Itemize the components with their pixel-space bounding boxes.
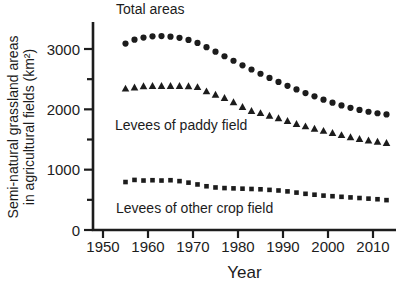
series-label-total-areas: Total areas: [116, 2, 184, 17]
data-point-square: [294, 190, 299, 195]
data-point-triangle: [140, 82, 148, 89]
data-point-triangle: [257, 109, 265, 116]
data-point-triangle: [122, 85, 130, 92]
data-point-square: [330, 194, 335, 199]
data-point-circle: [338, 102, 344, 108]
data-point-circle: [266, 75, 272, 81]
data-point-triangle: [167, 82, 175, 89]
data-point-triangle: [374, 138, 382, 145]
data-point-square: [321, 193, 326, 198]
data-point-circle: [122, 40, 128, 46]
y-tick-label: 2000: [47, 101, 80, 118]
data-point-circle: [131, 37, 137, 43]
data-point-triangle: [338, 131, 346, 138]
data-point-circle: [311, 93, 317, 99]
data-point-triangle: [347, 133, 355, 140]
x-tick-label: 1990: [266, 238, 299, 255]
data-point-circle: [212, 49, 218, 55]
data-point-square: [204, 184, 209, 189]
data-point-square: [285, 189, 290, 194]
x-tick-label: 1960: [131, 238, 164, 255]
y-axis-label-line1: Semi-natural grassland areas: [5, 2, 21, 252]
y-axis-label: Semi-natural grassland areas in agricult…: [5, 2, 39, 252]
data-point-square: [177, 179, 182, 184]
y-axis-label-line2: in agricultural fields (km²): [21, 2, 37, 252]
data-point-circle: [221, 53, 227, 59]
data-point-square: [384, 198, 389, 203]
data-point-square: [123, 180, 128, 185]
y-tick-label: 3000: [47, 41, 80, 58]
data-point-circle: [365, 109, 371, 115]
data-point-circle: [284, 83, 290, 89]
data-point-triangle: [329, 129, 337, 136]
data-point-triangle: [365, 137, 373, 144]
data-point-square: [141, 178, 146, 183]
data-point-square: [375, 197, 380, 202]
data-point-triangle: [131, 84, 139, 91]
data-point-triangle: [293, 120, 301, 127]
data-point-circle: [374, 110, 380, 116]
data-point-triangle: [158, 82, 166, 89]
data-point-square: [150, 178, 155, 183]
data-point-triangle: [320, 127, 328, 134]
data-point-triangle: [149, 82, 157, 89]
data-point-triangle: [212, 91, 220, 98]
data-point-circle: [185, 37, 191, 43]
x-tick-label: 1980: [221, 238, 254, 255]
data-point-triangle: [230, 98, 238, 105]
data-point-circle: [230, 58, 236, 64]
data-point-square: [339, 195, 344, 200]
x-tick-label: 1950: [86, 238, 119, 255]
data-point-circle: [257, 71, 263, 77]
data-point-square: [240, 186, 245, 191]
data-point-circle: [329, 100, 335, 106]
x-tick-label: 1970: [176, 238, 209, 255]
data-point-square: [195, 182, 200, 187]
series-total-areas: [122, 33, 389, 118]
x-tick-label: 2010: [356, 238, 389, 255]
x-tick-label: 2000: [311, 238, 344, 255]
data-point-square: [186, 180, 191, 185]
data-point-square: [231, 186, 236, 191]
data-point-square: [276, 188, 281, 193]
data-point-square: [366, 196, 371, 201]
data-point-square: [249, 187, 254, 192]
data-point-triangle: [176, 82, 184, 89]
data-point-triangle: [311, 125, 319, 132]
data-point-triangle: [203, 87, 211, 94]
data-point-circle: [248, 66, 254, 72]
data-point-square: [222, 186, 227, 191]
data-point-triangle: [356, 135, 364, 142]
data-point-square: [132, 178, 137, 183]
data-point-triangle: [185, 82, 193, 89]
data-point-circle: [176, 35, 182, 41]
data-point-triangle: [383, 139, 391, 146]
data-point-circle: [347, 105, 353, 111]
data-point-square: [357, 196, 362, 201]
data-point-square: [159, 178, 164, 183]
data-point-triangle: [239, 103, 247, 110]
y-tick-label: 0: [72, 222, 80, 239]
data-point-circle: [356, 107, 362, 113]
data-point-triangle: [194, 83, 202, 90]
data-point-square: [312, 192, 317, 197]
series-label-levees-of-other-crop-field: Levees of other crop field: [116, 201, 273, 216]
data-point-triangle: [266, 112, 274, 119]
data-point-circle: [320, 97, 326, 103]
data-point-triangle: [248, 107, 256, 114]
series-label-levees-of-paddy-field: Levees of paddy field: [115, 118, 247, 133]
data-point-circle: [302, 90, 308, 96]
data-point-square: [258, 187, 263, 192]
data-point-triangle: [275, 114, 283, 121]
series-levees-of-paddy-field: [122, 82, 391, 146]
y-tick-label: 1000: [47, 161, 80, 178]
data-point-square: [267, 188, 272, 193]
data-point-square: [303, 192, 308, 197]
data-point-square: [348, 195, 353, 200]
data-point-circle: [140, 34, 146, 40]
series-levees-of-other-crop-field: [123, 178, 389, 203]
chart-canvas: 0100020003000195019601970198019902000201…: [0, 0, 399, 291]
data-point-circle: [383, 111, 389, 117]
data-point-triangle: [302, 122, 310, 129]
data-point-circle: [239, 62, 245, 68]
